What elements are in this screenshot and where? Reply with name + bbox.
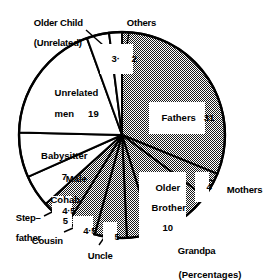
value-chip-older-brother: Older Brother 10 <box>139 172 186 244</box>
value-male-cohab: 5 <box>63 215 68 226</box>
value-chip-fathers: Fathers 31 <box>149 102 205 134</box>
label-mothers: Mothers <box>217 175 262 205</box>
label-fathers-text: Fathers 31 <box>162 112 215 123</box>
label-male-text: Male <box>44 174 87 185</box>
label-unrelated-men-line1: Unrelated <box>55 87 99 98</box>
label-cohab-text: Cohab <box>51 194 81 205</box>
label-grandpa-text: Grandpa <box>178 245 216 256</box>
label-male-cohab: Male Cohab 5 <box>30 163 90 237</box>
label-older-child-line2: (Unrelated) <box>34 37 82 48</box>
chart-caption: (Percentages) <box>168 258 241 280</box>
pie-chart-figure: Older Child (Unrelated) Others Mothers G… <box>0 0 270 280</box>
value-uncle: 5 <box>115 231 120 242</box>
label-unrelated-men: Unrelated men19 <box>44 77 128 130</box>
label-older-child-line1: Older Child <box>34 17 83 28</box>
value-older-brother: 10 <box>162 222 173 233</box>
value-mothers: 4 <box>207 181 212 192</box>
label-mothers-text: Mothers <box>227 184 263 195</box>
label-older-brother-line1: Older <box>155 182 180 193</box>
label-others-text: Others <box>127 17 156 28</box>
value-chip-uncle: 5 <box>103 222 117 252</box>
label-others: Others <box>117 8 156 38</box>
value-chip-mothers: 4 <box>195 172 209 202</box>
label-unrelated-men-line2: men <box>55 108 75 119</box>
value-chip-others: 2 <box>120 44 133 74</box>
value-chip-older-child: 3·5 <box>100 44 119 74</box>
label-older-brother-line2: Brother <box>152 202 186 213</box>
value-unrelated-men: 19 <box>88 108 99 119</box>
value-others: 2 <box>132 53 137 64</box>
label-babysitter-text: Babysitter <box>41 150 87 161</box>
chart-caption-text: (Percentages) <box>179 269 242 280</box>
label-older-child-unrelated: Older Child (Unrelated) <box>24 8 83 57</box>
